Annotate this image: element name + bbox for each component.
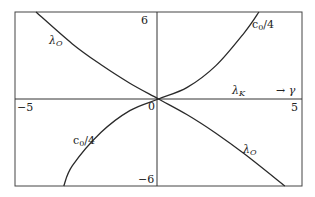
x-tick-neg5: −5 (17, 101, 33, 114)
x-tick-5: 5 (291, 101, 298, 114)
y-tick-neg6: −6 (138, 173, 154, 186)
label-lambda-o-upper: λO (48, 34, 63, 48)
label-c0-upper: c0/4 (252, 18, 274, 32)
origin-label: 0 (148, 100, 155, 113)
y-tick-6: 6 (141, 14, 148, 27)
chart-canvas: 6 −6 −5 5 0 λO λO c0/4 c0/4 λK → γ (0, 0, 315, 197)
label-lambda-o-lower: λO (242, 143, 257, 157)
x-axis-label-gamma: → γ (276, 84, 296, 97)
label-lambda-k: λK (231, 84, 246, 98)
label-c0-lower: c0/4 (73, 134, 95, 148)
